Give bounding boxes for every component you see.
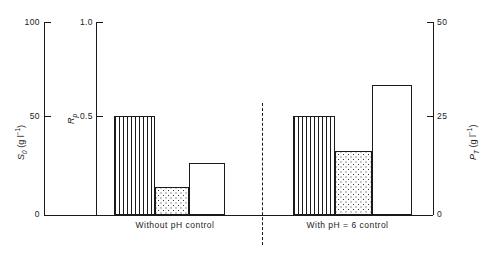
axis-s0-unit-close: ) xyxy=(16,125,26,128)
axis-pt-ticklabel-0: 0 xyxy=(437,209,442,219)
group-divider-dashed-line xyxy=(262,103,263,245)
axis-rp-title: Rp xyxy=(66,114,78,124)
axis-s0-tick-50 xyxy=(44,116,51,117)
axis-s0-ticklabel-100: 100 xyxy=(18,17,40,27)
axis-rp-symbol: R xyxy=(66,118,76,125)
axis-pt-unit-open: (g l xyxy=(468,135,478,150)
axis-pt-tick-50 xyxy=(427,22,434,23)
axis-s0-unit-exponent: −1 xyxy=(14,128,21,135)
axis-pt-symbol: P xyxy=(468,154,478,160)
axis-rp-tick-1 xyxy=(96,22,103,23)
axis-pt-tick-25 xyxy=(427,116,434,117)
x-axis-baseline xyxy=(44,215,433,216)
bar-s0-without-ph-control xyxy=(114,116,155,215)
bar-rp-without-ph-control xyxy=(155,187,189,215)
bar-pt-with-ph-6-control xyxy=(372,85,412,215)
bar-rp-with-ph-6-control xyxy=(335,151,372,215)
group-caption-without-ph-control: Without pH control xyxy=(110,220,240,230)
axis-pt-ticklabel-25: 25 xyxy=(437,111,447,121)
axis-pt-unit-exponent: −1 xyxy=(466,128,473,135)
axis-rp-line xyxy=(96,22,97,215)
axis-pt-unit-close: ) xyxy=(468,125,478,128)
axis-s0-subscript: 0 xyxy=(21,150,28,154)
axis-pt-title: PT (g l−1) xyxy=(466,125,480,160)
axis-s0-symbol: S xyxy=(16,154,26,160)
axis-s0-ticklabel-0: 0 xyxy=(18,209,40,219)
bar-pt-without-ph-control xyxy=(189,163,225,215)
chart-figure: 100 50 0 S0 (g l−1) 1.0 0.5 Rp 50 25 0 P… xyxy=(0,0,489,264)
axis-s0-ticklabel-50: 50 xyxy=(18,111,40,121)
axis-s0-unit-open: (g l xyxy=(16,135,26,150)
axis-rp-subscript: p xyxy=(71,114,78,118)
axis-s0-title: S0 (g l−1) xyxy=(14,125,28,160)
axis-s0-line xyxy=(44,22,45,215)
axis-rp-ticklabel-1: 1.0 xyxy=(70,17,93,27)
axis-rp-tick-05 xyxy=(96,116,103,117)
bar-s0-with-ph-6-control xyxy=(293,116,335,215)
axis-pt-line xyxy=(433,22,434,215)
axis-pt-ticklabel-50: 50 xyxy=(437,17,447,27)
axis-pt-subscript: T xyxy=(473,150,480,154)
group-caption-with-ph-6-control: With pH = 6 control xyxy=(280,220,415,230)
axis-s0-tick-100 xyxy=(44,22,51,23)
